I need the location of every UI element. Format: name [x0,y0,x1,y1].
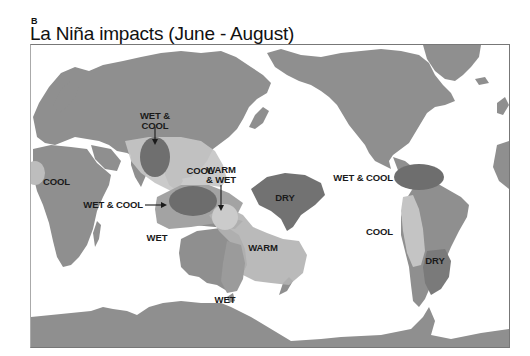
world-map: WET & COOL COOL COOL WARM & WET WET & CO… [30,44,510,348]
label-dry-south-america: DRY [425,255,445,266]
warm-wet-pacific-region [212,204,238,230]
label-warm-australia-east: WARM [248,242,278,253]
label-warm-wet-line2: & WET [206,174,236,185]
uk-landmass [497,97,509,115]
label-wet-cool-central-america: WET & COOL [333,172,393,183]
map-title: La Niña impacts (June - August) [30,23,294,45]
label-dry-central-pacific: DRY [275,192,295,203]
label-wet-indonesia: WET [147,232,168,243]
wet-cool-central-america-region [394,164,444,190]
label-wet-cool-maritime: WET & COOL [83,199,143,210]
antarctica-landmass [31,301,509,347]
label-wet-cool-india-line2: COOL [141,120,168,131]
madagascar-landmass [93,221,101,247]
map-canvas: WET & COOL COOL COOL WARM & WET WET & CO… [31,45,509,347]
wet-cool-maritime-region [169,186,217,216]
label-cool-south-america-west: COOL [366,226,393,237]
north-america-landmass [267,49,455,169]
africa-west-edge [493,141,509,189]
japan-landmass [249,107,269,129]
label-wet-southeast-australia: WET [215,294,236,305]
iceland-landmass [475,77,489,85]
label-cool-west-africa: COOL [43,176,70,187]
